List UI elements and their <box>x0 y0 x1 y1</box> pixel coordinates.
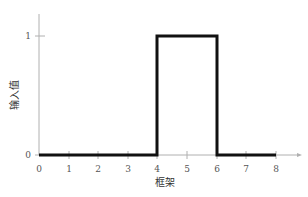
svg-text:6: 6 <box>214 164 220 174</box>
svg-text:1: 1 <box>66 164 72 174</box>
chart: 1 0 0 1 2 3 4 5 6 7 8 框架 输入值 <box>0 0 308 197</box>
y-axis-title: 输入值 <box>8 80 20 110</box>
series-input-line <box>39 36 276 155</box>
y-ticks <box>35 36 45 155</box>
x-axis-title: 框架 <box>155 176 175 188</box>
svg-text:5: 5 <box>184 164 190 174</box>
svg-text:2: 2 <box>95 164 101 174</box>
y-tick-label-1: 1 <box>25 31 31 41</box>
svg-text:8: 8 <box>273 164 279 174</box>
y-tick-label-0: 0 <box>25 150 31 160</box>
svg-text:7: 7 <box>243 164 249 174</box>
x-axis-arrow-icon <box>297 153 302 157</box>
x-tick-labels: 0 1 2 3 4 5 6 7 8 <box>36 164 279 174</box>
svg-text:0: 0 <box>36 164 42 174</box>
svg-text:4: 4 <box>154 164 160 174</box>
svg-text:3: 3 <box>125 164 131 174</box>
